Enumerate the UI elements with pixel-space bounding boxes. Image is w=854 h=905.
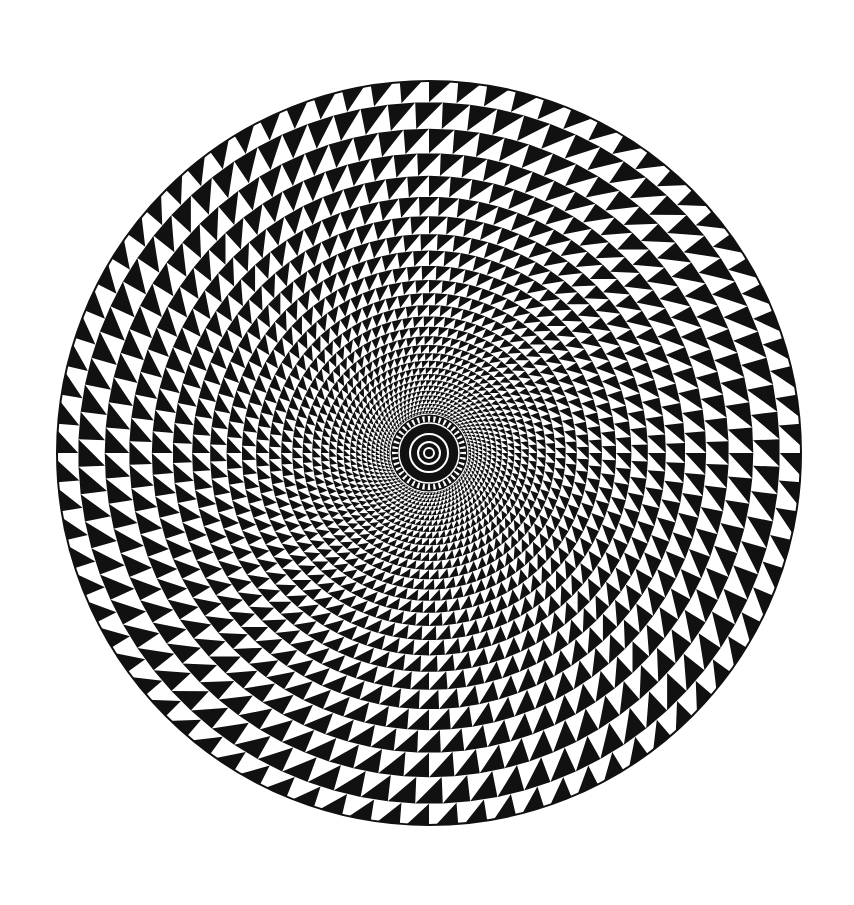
spiral-triangle-pattern xyxy=(0,0,854,905)
center-hub xyxy=(389,413,469,493)
